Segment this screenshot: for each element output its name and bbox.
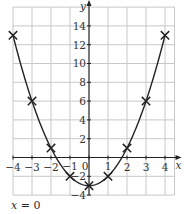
y-axis-label: y — [79, 0, 87, 12]
y-tick-label: 8 — [79, 76, 86, 88]
caption-variable: x — [11, 199, 17, 212]
x-tick-label: 4 — [162, 161, 169, 173]
y-tick-label: −2 — [71, 170, 86, 182]
y-tick-label: 14 — [73, 20, 87, 32]
y-tick-label: −4 — [71, 189, 87, 201]
y-tick-label: 12 — [73, 39, 86, 51]
y-tick-label: 4 — [79, 114, 86, 126]
x-tick-label: −2 — [43, 161, 58, 173]
x-tick-label: −3 — [24, 161, 39, 173]
y-tick-label: 2 — [79, 133, 86, 145]
x-axis-label: x — [176, 159, 182, 171]
x-tick-label: 2 — [124, 161, 131, 173]
y-axis-arrow-icon — [87, 0, 92, 6]
parabola-chart: −4−3−2−101234−4−22468101214xy — [0, 0, 192, 214]
caption-value: = 0 — [21, 199, 41, 212]
x-tick-label: −4 — [5, 161, 21, 173]
x-tick-label: 1 — [105, 160, 112, 172]
y-tick-label: 6 — [79, 95, 86, 107]
x-tick-label: 3 — [143, 161, 150, 173]
axis-of-symmetry-caption: x = 0 — [11, 199, 40, 212]
y-tick-label: 10 — [73, 57, 86, 69]
